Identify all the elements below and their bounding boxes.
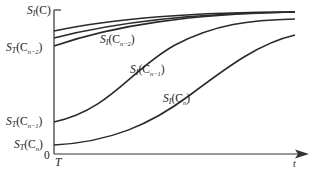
t-start-label: T [55,157,61,169]
curve-label-si-cn1: SI(Cn−1) [130,64,165,78]
curve-label-si-cn: SI(Cn) [163,93,190,107]
curve-s-n2 [54,12,295,46]
curve-s-n [54,35,295,145]
origin-label: 0 [44,150,50,162]
y-label-st-cn: ST(Cn) [14,139,43,153]
y-label-si-c: SI(C) [27,5,51,18]
curve-label-si-cn2: SI(Cn−2) [100,34,135,48]
y-label-st-cn2: ST(Cn−2) [6,42,42,56]
saturation-curves-diagram: SI(C) ST(Cn−2) ST(Cn−1) ST(Cn) 0 T t SI(… [0,0,320,175]
y-label-st-cn1: ST(Cn−1) [6,116,42,130]
t-axis-label: t [293,159,296,169]
